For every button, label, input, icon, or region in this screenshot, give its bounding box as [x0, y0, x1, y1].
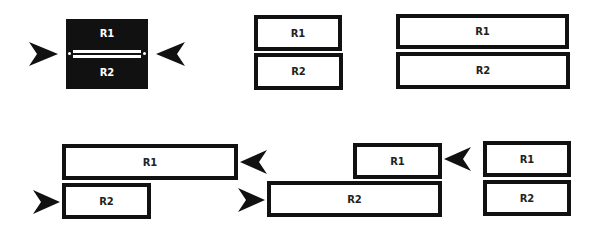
region-r1: R1 — [396, 14, 569, 49]
merged-region-block: R1 R2 — [66, 19, 148, 89]
arrow-right-icon — [29, 42, 59, 66]
boundary-line-top — [73, 50, 141, 53]
r2-label: R2 — [66, 67, 148, 78]
arrow-right-icon — [238, 188, 266, 212]
region-r2: R2 — [396, 52, 570, 89]
diagram-canvas: R1 R2 R1 R2 R1 R2 R1 R2 R1 R2 R1 R2 — [0, 0, 601, 231]
region-r2: R2 — [483, 180, 571, 216]
boundary-line-bottom — [73, 55, 141, 58]
boundary-dot-left — [68, 52, 71, 55]
region-r2: R2 — [267, 181, 442, 217]
region-r1: R1 — [62, 144, 238, 180]
arrow-left-icon — [443, 147, 471, 171]
arrow-left-icon — [155, 42, 185, 66]
region-r2: R2 — [62, 183, 151, 219]
arrow-left-icon — [239, 150, 267, 174]
r1-label: R1 — [66, 28, 148, 39]
region-r1: R1 — [254, 15, 342, 51]
region-r2: R2 — [254, 53, 343, 90]
region-r1: R1 — [483, 141, 571, 177]
region-r1: R1 — [353, 143, 442, 179]
arrow-right-icon — [33, 190, 61, 214]
boundary-dot-right — [143, 52, 146, 55]
